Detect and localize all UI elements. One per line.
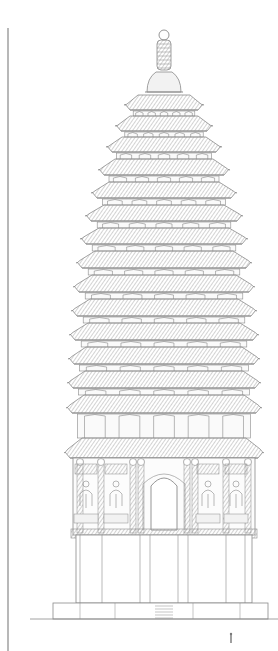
- roof-tier: [80, 228, 247, 251]
- roof-tier: [66, 395, 261, 438]
- finial: [145, 30, 183, 92]
- base-platform: [53, 603, 268, 619]
- roof-tier: [76, 251, 251, 275]
- roof-tier: [85, 205, 242, 228]
- roof-tier: [69, 323, 258, 347]
- roof-tier: [98, 159, 229, 182]
- main-body: [71, 458, 257, 538]
- plinth: [76, 535, 252, 603]
- roof-tier: [124, 95, 203, 116]
- roof-tier: [115, 116, 212, 137]
- roof-tier: [67, 371, 260, 395]
- roof-tier: [91, 182, 236, 205]
- roof-tier: [68, 347, 259, 371]
- roof-tiers: [64, 95, 263, 458]
- roof-tier: [71, 299, 256, 323]
- scale-figure-icon: [230, 633, 232, 643]
- roof-tier: [73, 275, 254, 299]
- pagoda-drawing: [0, 0, 278, 651]
- pilaster: [130, 460, 136, 533]
- pilaster: [98, 460, 104, 533]
- roof-tier: [64, 438, 263, 458]
- arched-doorway: [151, 478, 177, 530]
- roof-tier: [106, 137, 221, 159]
